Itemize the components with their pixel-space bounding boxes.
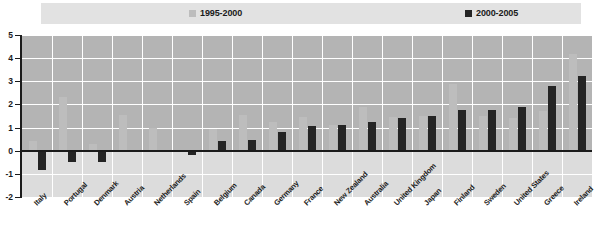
bar-ireland-1995-2000: [569, 54, 577, 151]
gridline-horizontal: [22, 174, 592, 175]
gridline-vertical: [382, 35, 383, 197]
y-axis-tick: [15, 58, 20, 59]
bar-belgium-1995-2000: [209, 129, 217, 151]
y-axis-tick: [15, 104, 20, 105]
y-axis-tick-label: 1: [0, 124, 13, 132]
bar-united-states-2000-2005: [518, 107, 526, 151]
gridline-horizontal: [22, 104, 592, 105]
gridline-horizontal: [22, 81, 592, 82]
y-axis-tick: [15, 151, 20, 152]
y-axis-tick-label: 5: [0, 31, 13, 39]
bar-chart: 1995-2000 2000-2005 543210-1-2 ItalyPort…: [0, 0, 596, 251]
y-axis-tick-label: 3: [0, 77, 13, 85]
legend-label-2000-2005: 2000-2005: [476, 7, 518, 20]
bar-sweden-1995-2000: [479, 116, 487, 151]
y-axis-tick-label: 0: [0, 147, 13, 155]
bar-finland-1995-2000: [449, 84, 457, 151]
y-axis-tick: [15, 174, 20, 175]
zero-axis-line: [22, 150, 592, 152]
gridline-vertical: [172, 35, 173, 197]
gridline-vertical: [532, 35, 533, 197]
bar-greece-1995-2000: [539, 111, 547, 150]
y-axis-tick-label: 4: [0, 54, 13, 62]
bar-greece-2000-2005: [548, 86, 556, 151]
bar-portugal-1995-2000: [59, 97, 67, 150]
gridline-vertical: [82, 35, 83, 197]
bar-france-1995-2000: [299, 117, 307, 151]
y-axis-tick: [15, 81, 20, 82]
bar-denmark-2000-2005: [98, 151, 106, 163]
plot-area: [22, 35, 592, 197]
gridline-vertical: [562, 35, 563, 197]
gridline-vertical: [412, 35, 413, 197]
y-axis-tick: [15, 128, 20, 129]
bar-canada-1995-2000: [239, 115, 247, 151]
bar-france-2000-2005: [308, 126, 316, 150]
gridline-vertical: [202, 35, 203, 197]
y-axis-tick: [15, 197, 20, 198]
legend-entry-1995-2000: 1995-2000: [189, 7, 242, 20]
gridline-vertical: [352, 35, 353, 197]
bar-italy-2000-2005: [38, 151, 46, 171]
gridline-vertical: [262, 35, 263, 197]
bar-germany-2000-2005: [278, 132, 286, 151]
legend-swatch-2000-2005: [465, 10, 472, 17]
gridline-vertical: [232, 35, 233, 197]
gridline-vertical: [142, 35, 143, 197]
bar-japan-2000-2005: [428, 116, 436, 151]
bar-germany-1995-2000: [269, 122, 277, 151]
bar-australia-1995-2000: [359, 107, 367, 151]
gridline-vertical: [322, 35, 323, 197]
legend-entry-2000-2005: 2000-2005: [465, 7, 518, 20]
bar-portugal-2000-2005: [68, 151, 76, 163]
bar-ireland-2000-2005: [578, 76, 586, 151]
bar-australia-2000-2005: [368, 122, 376, 151]
gridline-vertical: [52, 35, 53, 197]
bar-new-zealand-2000-2005: [338, 125, 346, 150]
chart-legend: 1995-2000 2000-2005: [41, 3, 581, 24]
gridline-vertical: [502, 35, 503, 197]
bar-finland-2000-2005: [458, 110, 466, 151]
y-axis-tick-label: -1: [0, 170, 13, 178]
y-axis-tick: [15, 35, 20, 36]
bar-united-states-1995-2000: [509, 118, 517, 150]
legend-swatch-1995-2000: [189, 10, 196, 17]
y-axis-tick-label: -2: [0, 193, 13, 201]
bar-new-zealand-1995-2000: [329, 125, 337, 150]
gridline-vertical: [472, 35, 473, 197]
gridline-horizontal: [22, 58, 592, 59]
bar-japan-1995-2000: [419, 116, 427, 151]
gridline-vertical: [292, 35, 293, 197]
gridline-horizontal: [22, 35, 592, 36]
bar-united-kingdom-2000-2005: [398, 118, 406, 150]
gridline-vertical: [442, 35, 443, 197]
bar-austria-1995-2000: [119, 115, 127, 151]
gridline-vertical: [112, 35, 113, 197]
legend-label-1995-2000: 1995-2000: [200, 7, 242, 20]
bar-sweden-2000-2005: [488, 110, 496, 151]
bar-united-kingdom-1995-2000: [389, 117, 397, 151]
bar-netherlands-1995-2000: [149, 128, 157, 151]
y-axis-tick-label: 2: [0, 100, 13, 108]
